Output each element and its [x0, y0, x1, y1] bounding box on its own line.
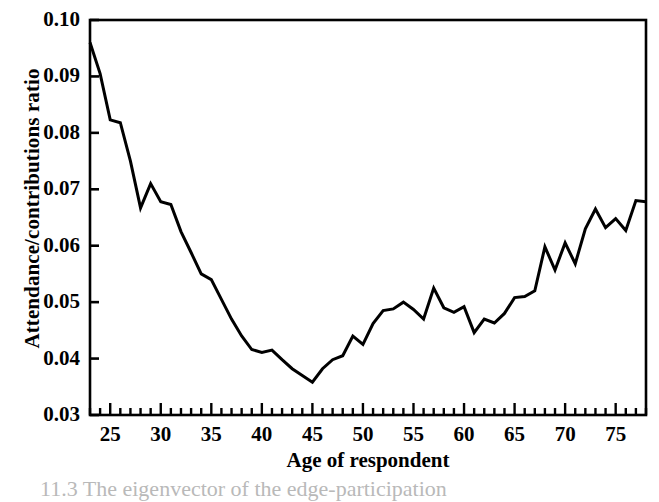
x-tick-label: 50 — [341, 424, 385, 445]
x-tick-label: 25 — [88, 424, 132, 445]
figure-caption: 11.3 The eigenvector of the edge-partici… — [40, 476, 640, 502]
x-tick-label: 70 — [543, 424, 587, 445]
x-tick-label: 60 — [442, 424, 486, 445]
y-tick-label: 0.04 — [4, 348, 80, 369]
x-axis-title: Age of respondent — [90, 448, 646, 473]
y-tick-label: 0.09 — [4, 65, 80, 86]
x-tick-label: 75 — [594, 424, 638, 445]
x-tick-label: 35 — [189, 424, 233, 445]
y-tick-label: 0.03 — [4, 404, 80, 425]
y-tick-label: 0.06 — [4, 235, 80, 256]
y-tick-label: 0.07 — [4, 178, 80, 199]
y-tick-label: 0.10 — [4, 9, 80, 30]
x-tick-label: 30 — [139, 424, 183, 445]
plot-frame — [90, 20, 646, 415]
x-tick-label: 55 — [391, 424, 435, 445]
x-tick-label: 45 — [290, 424, 334, 445]
y-tick-label: 0.08 — [4, 122, 80, 143]
y-tick-label: 0.05 — [4, 291, 80, 312]
x-tick-label: 40 — [240, 424, 284, 445]
x-tick-label: 65 — [493, 424, 537, 445]
